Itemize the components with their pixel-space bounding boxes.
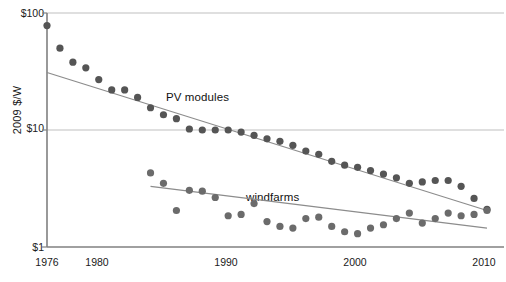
data-point-windfarms: [380, 221, 387, 228]
data-point-pv-modules: [406, 180, 413, 187]
data-point-windfarms: [341, 228, 348, 235]
data-point-windfarms: [160, 180, 167, 187]
data-point-pv-modules: [445, 177, 452, 184]
data-point-windfarms: [432, 215, 439, 222]
data-point-pv-modules: [43, 22, 50, 29]
data-point-pv-modules: [69, 59, 76, 66]
data-point-pv-modules: [328, 158, 335, 165]
data-point-windfarms: [289, 225, 296, 232]
data-point-pv-modules: [470, 195, 477, 202]
chart-container: 2009 $/W $100 $10 $1 1976 1980 1990 2000…: [0, 0, 506, 282]
data-point-pv-modules: [302, 148, 309, 155]
data-point-pv-modules: [121, 86, 128, 93]
data-point-pv-modules: [134, 94, 141, 101]
data-point-windfarms: [238, 211, 245, 218]
data-point-pv-modules: [289, 142, 296, 149]
data-point-windfarms: [470, 211, 477, 218]
data-point-pv-modules: [367, 167, 374, 174]
trend-lines: [47, 73, 487, 229]
data-point-pv-modules: [108, 86, 115, 93]
data-point-windfarms: [186, 187, 193, 194]
grid-lines: [47, 13, 504, 130]
data-point-pv-modules: [147, 104, 154, 111]
data-point-pv-modules: [212, 126, 219, 133]
data-point-pv-modules: [225, 126, 232, 133]
data-point-windfarms: [147, 169, 154, 176]
data-point-pv-modules: [354, 164, 361, 171]
data-point-pv-modules: [432, 177, 439, 184]
data-point-pv-modules: [341, 162, 348, 169]
data-point-windfarms: [212, 194, 219, 201]
data-point-pv-modules: [380, 170, 387, 177]
data-point-windfarms: [406, 209, 413, 216]
data-point-pv-modules: [82, 64, 89, 71]
data-point-pv-modules: [263, 135, 270, 142]
data-point-pv-modules: [315, 151, 322, 158]
data-point-windfarms: [328, 223, 335, 230]
data-point-windfarms: [419, 220, 426, 227]
data-point-windfarms: [250, 200, 257, 207]
data-point-windfarms: [315, 214, 322, 221]
data-point-windfarms: [225, 212, 232, 219]
data-point-windfarms: [458, 212, 465, 219]
data-point-pv-modules: [56, 45, 63, 52]
data-point-pv-modules: [419, 178, 426, 185]
data-point-windfarms: [276, 223, 283, 230]
data-point-windfarms: [199, 188, 206, 195]
data-point-windfarms: [393, 215, 400, 222]
data-point-windfarms: [302, 215, 309, 222]
data-point-pv-modules: [458, 183, 465, 190]
chart-plot-area: [0, 0, 506, 282]
data-point-windfarms: [173, 207, 180, 214]
data-point-windfarms: [367, 225, 374, 232]
data-point-pv-modules: [186, 125, 193, 132]
data-point-pv-modules: [276, 138, 283, 145]
data-point-pv-modules: [95, 76, 102, 83]
data-point-pv-modules: [199, 126, 206, 133]
data-point-pv-modules: [393, 174, 400, 181]
data-point-pv-modules: [173, 115, 180, 122]
data-point-windfarms: [445, 209, 452, 216]
data-point-pv-modules: [250, 132, 257, 139]
data-point-windfarms: [483, 207, 490, 214]
data-point-windfarms: [354, 230, 361, 237]
data-point-pv-modules: [160, 111, 167, 118]
data-point-windfarms: [263, 218, 270, 225]
data-point-pv-modules: [238, 128, 245, 135]
